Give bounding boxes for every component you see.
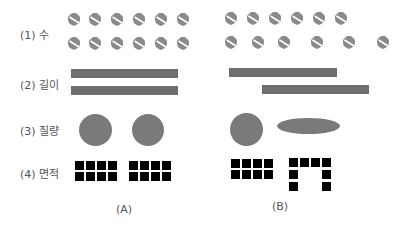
row-label-area: (4) 면적 (20, 165, 59, 181)
acorn-icon (268, 11, 282, 26)
acorn-icon (312, 11, 326, 26)
mass-circle-A-right (132, 114, 164, 146)
acorn-icon (154, 36, 168, 51)
row-label-number: (1) 수 (20, 26, 49, 42)
length-bar-B-bottom (262, 85, 369, 94)
acorn-icon (290, 11, 304, 26)
acorn-icon (132, 12, 146, 27)
length-bar-A-bottom (71, 86, 178, 95)
caption-A: (A) (116, 203, 132, 216)
acorn-icon (224, 35, 238, 50)
acorn-icon (246, 11, 260, 26)
acorn-icon (88, 36, 102, 51)
acorn-icon (224, 11, 238, 26)
acorn-icon (277, 35, 291, 50)
acorn-icon (110, 36, 124, 51)
acorn-icon (342, 35, 356, 50)
length-bar-B-top (229, 68, 337, 77)
acorn-icon (251, 35, 265, 50)
acorn-icon (154, 12, 168, 27)
row-label-length: (2) 길이 (20, 76, 59, 92)
acorn-icon (67, 36, 81, 51)
acorn-icon (176, 36, 190, 51)
mass-circle-A-left (79, 114, 112, 146)
mass-ellipse-B (277, 118, 340, 134)
acorn-icon (176, 12, 190, 27)
acorn-icon (310, 35, 324, 50)
acorn-icon (376, 35, 390, 50)
acorn-icon (132, 36, 146, 51)
acorn-icon (110, 12, 124, 27)
row-label-mass: (3) 질량 (20, 122, 59, 138)
acorn-icon (334, 11, 348, 26)
length-bar-A-top (71, 69, 178, 78)
acorn-icon (88, 12, 102, 27)
acorn-icon (67, 12, 81, 27)
mass-circle-B (230, 113, 263, 146)
caption-B: (B) (272, 200, 288, 213)
